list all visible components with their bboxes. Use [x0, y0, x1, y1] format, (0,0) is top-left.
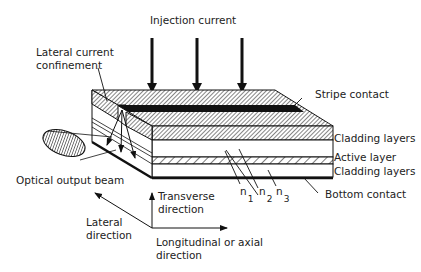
label-n3: n3	[276, 185, 288, 199]
injection-current-arrows	[152, 38, 242, 92]
label-longitudinal-1: Longitudinal or axial	[156, 236, 263, 249]
label-transverse-2: direction	[158, 203, 204, 216]
label-active-layer: Active layer	[334, 151, 396, 164]
label-n2: n2	[259, 185, 271, 199]
label-longitudinal-2: direction	[156, 249, 202, 262]
label-lateral-confinement-2: confinement	[36, 59, 102, 72]
label-lateral-1: Lateral	[86, 216, 123, 229]
label-lateral-confinement-1: Lateral current	[36, 46, 114, 59]
label-cladding-bottom: Cladding layers	[334, 165, 415, 178]
label-cladding-top: Cladding layers	[334, 132, 415, 145]
label-n1: n1	[240, 185, 252, 199]
label-injection-current: Injection current	[150, 14, 236, 27]
label-optical-output: Optical output beam	[16, 174, 124, 187]
label-bottom-contact: Bottom contact	[325, 188, 406, 201]
label-transverse-1: Transverse	[158, 190, 215, 203]
label-lateral-2: direction	[86, 229, 132, 242]
label-stripe-contact: Stripe contact	[315, 88, 389, 101]
